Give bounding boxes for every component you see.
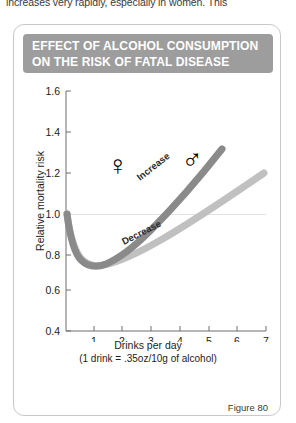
plot-area: Relative mortality risk — [14, 77, 282, 417]
chart-svg: 1.6 1.4 1.2 1.0 0.8 0.6 0.4 — [14, 77, 282, 342]
y-axis-tick-labels: 1.6 1.4 1.2 1.0 0.8 0.6 0.4 — [45, 85, 60, 337]
y-tick-label: 0.4 — [45, 325, 60, 337]
x-axis-title-sub: (1 drink = .35oz/10g of alcohol) — [14, 352, 282, 365]
y-tick-label: 1.6 — [45, 85, 60, 97]
y-tick-label: 0.8 — [45, 249, 60, 261]
y-tick-label: 1.4 — [45, 126, 60, 138]
figure-card: EFFECT OF ALCOHOL CONSUMPTION ON THE RIS… — [13, 24, 281, 416]
x-axis-title-main: Drinks per day — [14, 339, 282, 352]
figure-title-banner: EFFECT OF ALCOHOL CONSUMPTION ON THE RIS… — [23, 34, 273, 73]
male-symbol-icon: ♂ — [182, 144, 203, 175]
female-symbol-icon: ♀ — [108, 150, 129, 181]
figure-title-line-1: EFFECT OF ALCOHOL CONSUMPTION — [32, 38, 256, 54]
y-tick-label: 1.0 — [45, 208, 60, 220]
body-paragraph-fragment: increases very rapidly, especially in wo… — [6, 0, 290, 9]
y-tick-label: 1.2 — [45, 167, 60, 179]
x-axis-title: Drinks per day (1 drink = .35oz/10g of a… — [14, 339, 282, 365]
increase-annotation: Increase — [134, 150, 171, 182]
figure-title-line-2: ON THE RISK OF FATAL DISEASE — [32, 54, 256, 70]
figure-caption: Figure 80 — [228, 402, 268, 413]
figure-page: increases very rapidly, especially in wo… — [0, 0, 296, 423]
y-axis-title: Relative mortality risk — [34, 131, 46, 271]
x-axis-ticks — [94, 326, 266, 331]
y-tick-label: 0.6 — [45, 284, 60, 296]
